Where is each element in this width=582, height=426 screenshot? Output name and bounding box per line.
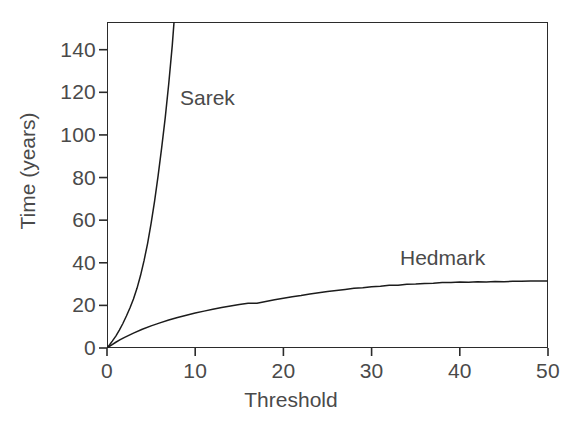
chart-figure: 020406080100120140 01020304050 Time (yea… — [0, 0, 582, 426]
y-axis-title: Time (years) — [17, 86, 39, 256]
series-label-sarek: Sarek — [180, 87, 235, 108]
plot-canvas — [107, 22, 548, 348]
series-label-hedmark: Hedmark — [400, 247, 485, 268]
x-tick-label: 0 — [101, 360, 113, 381]
x-tick-label: 40 — [448, 360, 472, 381]
x-tick-label: 10 — [183, 360, 207, 381]
series-line-sarek — [107, 22, 174, 348]
series-line-hedmark — [107, 281, 548, 348]
x-tick-label: 50 — [536, 360, 560, 381]
x-tick-label: 20 — [272, 360, 296, 381]
x-tick-label: 30 — [360, 360, 384, 381]
x-axis-title: Threshold — [0, 389, 582, 411]
